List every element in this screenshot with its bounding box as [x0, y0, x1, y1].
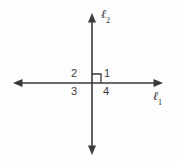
perpendicular-lines-figure	[0, 0, 177, 165]
line-label-l2: ℓ2	[101, 8, 110, 23]
line-label-l1-subscript: 1	[158, 98, 162, 107]
angle-label-3: 3	[71, 86, 77, 97]
angle-label-2: 2	[71, 68, 77, 79]
angle-label-4: 4	[103, 86, 109, 97]
right-angle-marker-icon	[92, 74, 101, 83]
line-label-l2-subscript: 2	[106, 16, 110, 25]
line-l1-group	[13, 79, 163, 87]
line-label-l1: ℓ1	[153, 90, 162, 105]
angle-label-1: 1	[104, 68, 110, 79]
arrowhead-up-icon	[88, 13, 96, 23]
arrowhead-down-icon	[88, 146, 96, 156]
arrowhead-left-icon	[13, 79, 23, 87]
geometry-diagram: 2 1 3 4 ℓ2 ℓ1	[0, 0, 177, 165]
line-l2-group	[88, 13, 96, 155]
arrowhead-right-icon	[154, 79, 164, 87]
